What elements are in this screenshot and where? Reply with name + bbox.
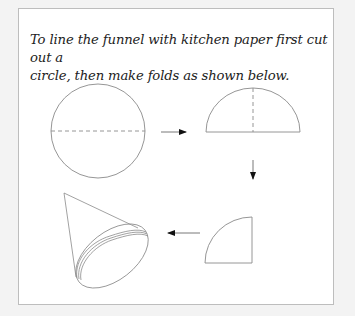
paper-cone-icon: [64, 193, 160, 301]
circle-step-icon: [51, 84, 145, 178]
folding-diagram: [0, 0, 355, 316]
quarter-circle-step-icon: [205, 217, 252, 263]
semicircle-step-icon: [206, 88, 300, 132]
